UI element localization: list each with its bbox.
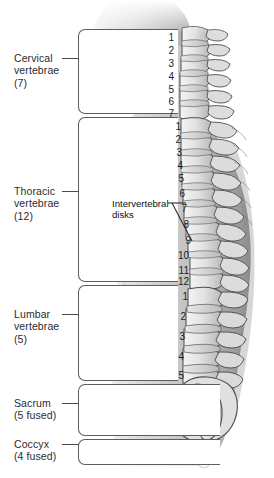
vertebra-number: 1 [172,292,188,302]
vertebra-number: 2 [158,46,174,56]
vertebra-number: 5 [168,174,184,184]
vertebra-number: 8 [173,220,189,230]
vertebra-number: 9 [175,236,191,246]
vertebra-number: 3 [169,332,185,342]
bracket-coccyx [78,439,220,465]
vertebra-number: 4 [167,161,183,171]
cervical-vertebrae-group [180,26,234,120]
vertebra-number: 12 [173,277,189,287]
label-coccyx: Coccyx (4 fused) [14,438,56,463]
leader-coccyx [62,444,79,445]
vertebra-number: 3 [158,59,174,69]
label-thoracic: Thoracic vertebrae (12) [14,185,59,222]
bracket-lumbar [78,285,178,381]
vertebra-number: 7 [171,204,187,214]
vertebra-number: 10 [173,251,189,261]
vertebra-number: 1 [165,122,181,132]
vertebra-number: 5 [158,85,174,95]
vertebra-number: 6 [158,97,174,107]
label-sacrum: Sacrum (5 fused) [14,397,56,422]
vertebra-number: 1 [158,33,174,43]
vertebra-number: 4 [168,352,184,362]
vertebra-number: 7 [158,109,174,119]
vertebra-number: 3 [166,148,182,158]
bracket-sacrum [78,384,220,436]
leader-thoracic [62,191,79,192]
label-lumbar: Lumbar vertebrae (5) [14,308,59,345]
vertebra-number: 2 [170,312,186,322]
vertebra-number: 4 [158,72,174,82]
vertebra-number: 11 [173,266,189,276]
leader-lumbar [62,314,79,315]
diagram-canvas: Cervical vertebrae (7) Thoracic vertebra… [0,0,274,478]
vertebra-number: 6 [169,189,185,199]
leader-cervical [62,58,79,59]
vertebra-number: 5 [168,371,184,381]
callout-intervertebral-disks: Intervertebral disks [112,198,169,220]
leader-sacrum [62,403,79,404]
lumbar-vertebrae-group [183,287,248,390]
vertebra-number: 2 [165,135,181,145]
label-cervical: Cervical vertebrae (7) [14,52,59,89]
